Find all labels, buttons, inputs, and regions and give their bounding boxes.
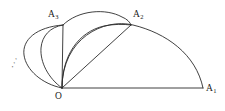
vertex-label-A3: A3: [48, 10, 58, 20]
vertex-label-A2: A2: [133, 10, 143, 20]
vertex-label-O-base: O: [55, 91, 62, 101]
vertex-label-A2-subscript: 2: [140, 13, 143, 20]
vertex-label-A3-subscript: 3: [55, 13, 58, 20]
arc-A3-A2: [63, 12, 131, 25]
geometric-figure: A3 A2 A1 O ⋰: [0, 0, 225, 111]
vertex-label-A3-base: A: [48, 9, 55, 19]
arc-O-A3-inner: [41, 25, 63, 88]
arc-O-A3-outer: [24, 25, 63, 88]
vertex-label-A1: A1: [206, 84, 216, 94]
vertex-label-A1-subscript: 1: [213, 87, 216, 94]
semicircle-O-A1-arc: [62, 24, 203, 88]
vertex-label-O: O: [55, 92, 62, 102]
figure-canvas: [0, 0, 225, 111]
vertex-label-A2-base: A: [133, 9, 140, 19]
vertex-label-A1-base: A: [206, 83, 213, 93]
chord-O-A2: [62, 25, 131, 88]
